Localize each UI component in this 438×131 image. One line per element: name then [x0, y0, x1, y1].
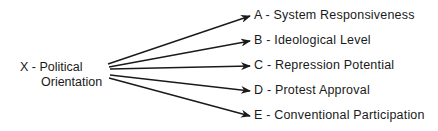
arrow-to-c — [110, 66, 250, 69]
arrow-to-e — [109, 78, 250, 116]
arrow-to-b — [109, 41, 250, 67]
target-e: E - Conventional Participation — [254, 108, 425, 122]
target-d: D - Protest Approval — [254, 83, 370, 97]
target-c: C - Repression Potential — [254, 58, 394, 72]
target-b: B - Ideological Level — [254, 33, 371, 47]
arrow-to-a — [108, 16, 250, 64]
arrow-to-d — [110, 75, 250, 91]
target-a: A - System Responsiveness — [254, 8, 415, 22]
